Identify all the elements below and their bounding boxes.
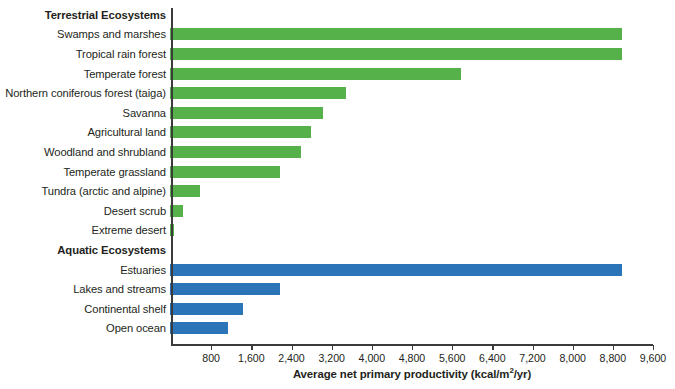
bar-category-label: Woodland and shrubland bbox=[0, 146, 170, 158]
bar-category-label: Tropical rain forest bbox=[0, 48, 170, 60]
bar-track bbox=[170, 25, 675, 45]
x-axis-tick bbox=[613, 345, 614, 350]
x-axis-tick bbox=[653, 345, 654, 350]
bar-category-label: Continental shelf bbox=[0, 303, 170, 315]
x-axis-tick-label: 8,000 bbox=[559, 352, 586, 365]
bar bbox=[170, 146, 301, 158]
bar-category-label: Swamps and marshes bbox=[0, 28, 170, 40]
bar bbox=[170, 48, 622, 60]
chart-rows: Terrestrial EcosystemsSwamps and marshes… bbox=[0, 5, 675, 338]
x-axis-title: Average net primary productivity (kcal/m… bbox=[171, 368, 653, 380]
table-row: Northern coniferous forest (taiga) bbox=[0, 83, 675, 103]
bar-category-label: Open ocean bbox=[0, 322, 170, 334]
group-header-row: Aquatic Ecosystems bbox=[0, 240, 675, 260]
bar bbox=[170, 303, 243, 315]
table-row: Tropical rain forest bbox=[0, 44, 675, 64]
bar-track bbox=[170, 181, 675, 201]
bar bbox=[170, 87, 346, 99]
x-axis-tick bbox=[372, 345, 373, 350]
x-axis-tick-label: 4,800 bbox=[399, 352, 426, 365]
x-axis-tick-label: 6,400 bbox=[479, 352, 506, 365]
bar-track bbox=[170, 103, 675, 123]
table-row: Woodland and shrubland bbox=[0, 142, 675, 162]
bar bbox=[170, 166, 280, 178]
table-row: Temperate forest bbox=[0, 64, 675, 84]
x-axis-title-text-1: Average net primary productivity (kcal/m bbox=[293, 368, 510, 380]
table-row: Estuaries bbox=[0, 260, 675, 280]
bar-category-label: Temperate grassland bbox=[0, 166, 170, 178]
table-row: Temperate grassland bbox=[0, 162, 675, 182]
bar-chart: Terrestrial EcosystemsSwamps and marshes… bbox=[0, 0, 675, 389]
bar-category-label: Agricultural land bbox=[0, 126, 170, 138]
table-row: Desert scrub bbox=[0, 201, 675, 221]
x-axis-tick bbox=[211, 345, 212, 350]
bar bbox=[170, 283, 280, 295]
bar-category-label: Estuaries bbox=[0, 264, 170, 276]
x-axis-tick-label: 800 bbox=[202, 352, 220, 365]
table-row: Open ocean bbox=[0, 319, 675, 339]
x-axis-tick bbox=[251, 345, 252, 350]
bar-track bbox=[170, 123, 675, 143]
table-row: Savanna bbox=[0, 103, 675, 123]
bar bbox=[170, 264, 622, 276]
x-axis-tick bbox=[332, 345, 333, 350]
x-axis-tick-label: 7,200 bbox=[519, 352, 546, 365]
x-axis-tick bbox=[573, 345, 574, 350]
table-row: Swamps and marshes bbox=[0, 25, 675, 45]
table-row: Agricultural land bbox=[0, 123, 675, 143]
bar bbox=[170, 68, 461, 80]
bar-track bbox=[170, 319, 675, 339]
bar-track bbox=[170, 162, 675, 182]
bar-category-label: Extreme desert bbox=[0, 224, 170, 236]
x-axis-tick-label: 3,200 bbox=[318, 352, 345, 365]
x-axis-tick bbox=[412, 345, 413, 350]
x-axis-tick-label: 5,600 bbox=[439, 352, 466, 365]
table-row: Continental shelf bbox=[0, 299, 675, 319]
bar-track bbox=[170, 221, 675, 241]
bar-track bbox=[170, 83, 675, 103]
y-axis-line bbox=[171, 8, 173, 345]
x-axis-tick bbox=[533, 345, 534, 350]
table-row: Extreme desert bbox=[0, 221, 675, 241]
group-header-row: Terrestrial Ecosystems bbox=[0, 5, 675, 25]
x-axis-tick bbox=[492, 345, 493, 350]
group-header-label: Aquatic Ecosystems bbox=[0, 244, 170, 256]
bar-track bbox=[170, 142, 675, 162]
x-axis-tick-label: 4,000 bbox=[359, 352, 386, 365]
bar-track bbox=[170, 64, 675, 84]
bar-category-label: Temperate forest bbox=[0, 68, 170, 80]
bar-category-label: Tundra (arctic and alpine) bbox=[0, 185, 170, 197]
group-header-label: Terrestrial Ecosystems bbox=[0, 9, 170, 21]
bar-category-label: Northern coniferous forest (taiga) bbox=[0, 87, 170, 99]
bar-category-label: Savanna bbox=[0, 107, 170, 119]
x-axis-tick-labels: 8001,6002,4003,2004,0004,8005,6006,4007,… bbox=[0, 352, 675, 366]
bar-track bbox=[170, 279, 675, 299]
bar bbox=[170, 126, 311, 138]
bar-track bbox=[170, 44, 675, 64]
x-axis-tick-label: 1,600 bbox=[238, 352, 265, 365]
bar bbox=[170, 28, 622, 40]
bar-track bbox=[170, 5, 675, 25]
bar bbox=[170, 185, 200, 197]
x-axis-tick-label: 2,400 bbox=[278, 352, 305, 365]
bar-track bbox=[170, 299, 675, 319]
x-axis-tick-label: 8,800 bbox=[600, 352, 627, 365]
bar-track bbox=[170, 201, 675, 221]
x-axis-tick-label: 9,600 bbox=[640, 352, 667, 365]
table-row: Tundra (arctic and alpine) bbox=[0, 181, 675, 201]
x-axis-title-text-2: /yr) bbox=[514, 368, 531, 380]
x-axis-ticks bbox=[171, 345, 653, 351]
bar-track bbox=[170, 240, 675, 260]
bar bbox=[170, 107, 323, 119]
bar-category-label: Lakes and streams bbox=[0, 283, 170, 295]
bar-category-label: Desert scrub bbox=[0, 205, 170, 217]
bar bbox=[170, 322, 228, 334]
table-row: Lakes and streams bbox=[0, 279, 675, 299]
x-axis-tick bbox=[292, 345, 293, 350]
bar-track bbox=[170, 260, 675, 280]
x-axis-tick bbox=[452, 345, 453, 350]
